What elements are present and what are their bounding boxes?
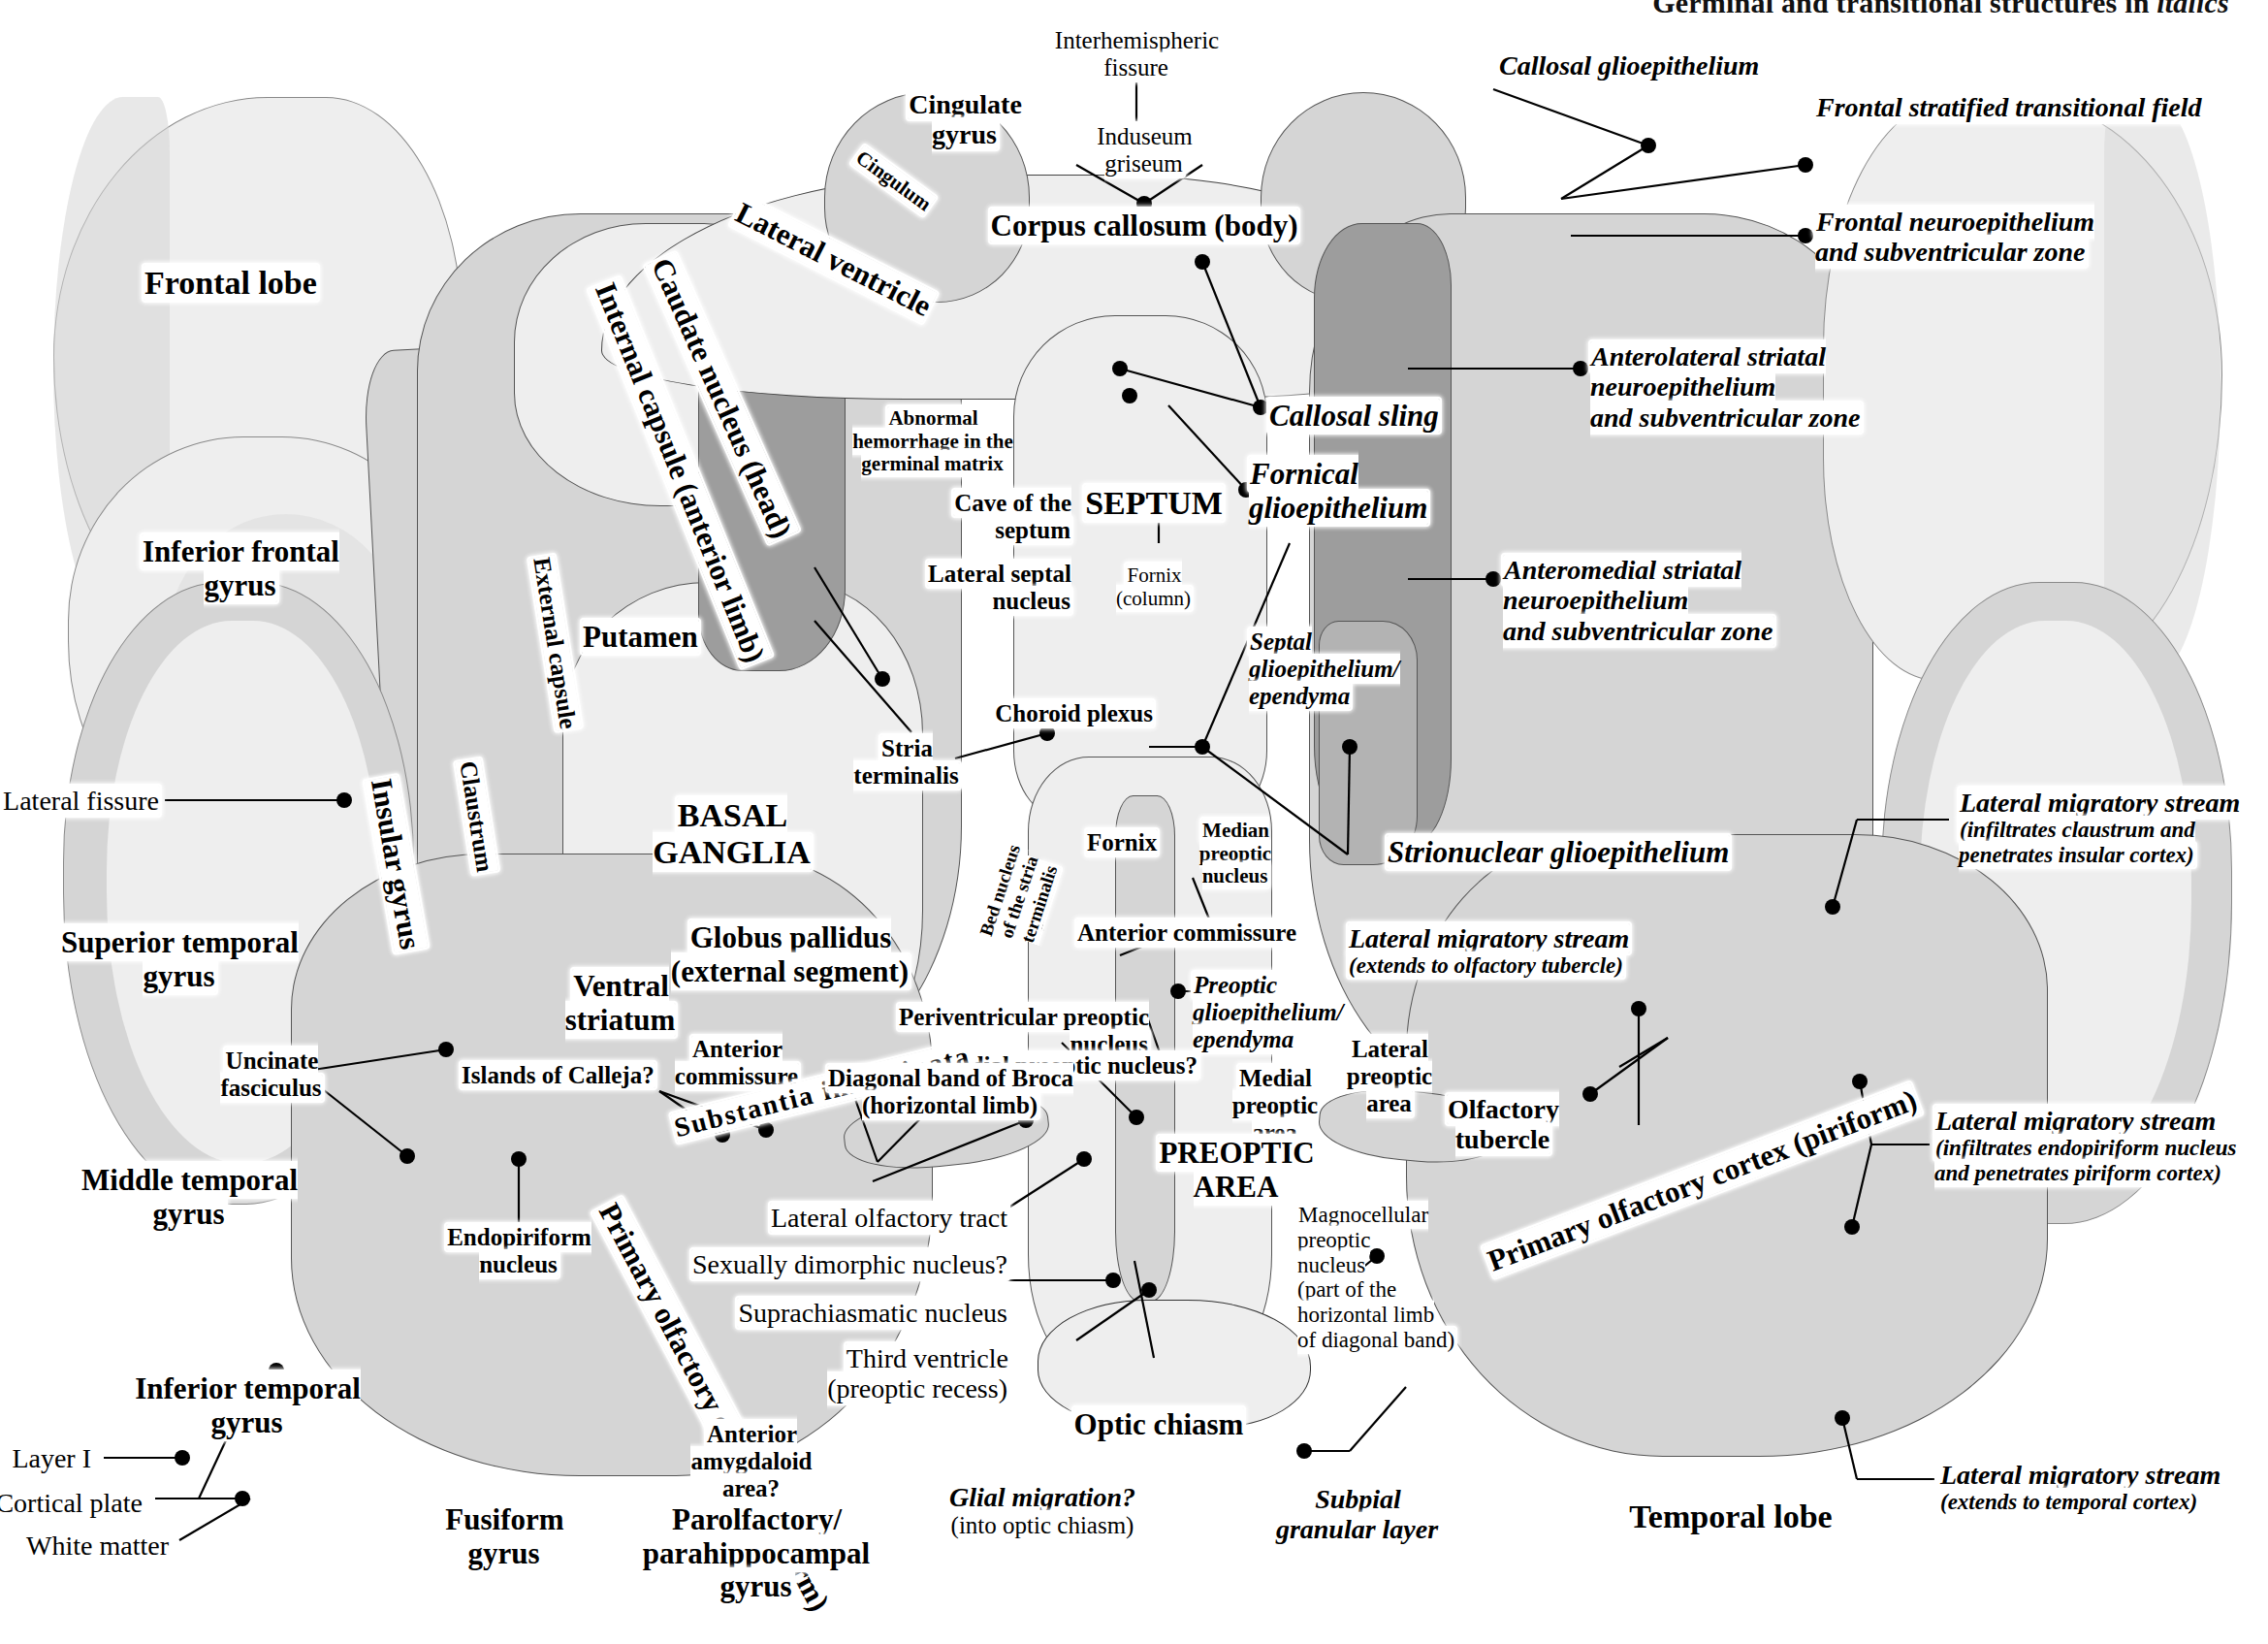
- label-lms-piriform: Lateral migratory stream (infiltrates en…: [1934, 1106, 2264, 1186]
- label-choroid-plexus: Choroid plexus: [970, 700, 1154, 727]
- label-cingulate-gyrus: Cingulate gyrus: [878, 89, 1052, 150]
- figure-page: Germinal and transitional structures in …: [0, 0, 2268, 1644]
- label-subpial-granular-layer: Subpial granular layer: [1241, 1484, 1474, 1545]
- label-corpus-callosum-body: Corpus callosum (body): [974, 210, 1314, 243]
- label-cave-of-the-septum: Cave of the septum: [897, 490, 1071, 544]
- label-induseum-griseum: Induseum griseum: [1057, 123, 1231, 177]
- label-lms-insular: Lateral migratory stream (infiltrates cl…: [1959, 788, 2268, 868]
- label-middle-temporal-gyrus: Middle temporal gyrus: [48, 1164, 330, 1231]
- label-septum: SEPTUM: [1057, 485, 1251, 522]
- label-frontal-neuroepithelium: Frontal neuroepithelium and subventricul…: [1815, 207, 2232, 268]
- label-ventral-striatum: Ventral striatum: [524, 970, 718, 1037]
- label-abnormal-hemorrhage: Abnormal hemorrhage in the germinal matr…: [836, 407, 1030, 476]
- label-frontal-stratified-transitional-field: Frontal stratified transitional field: [1815, 92, 2203, 122]
- label-anteromedial-striatal: Anteromedial striatal neuroepithelium an…: [1503, 555, 1930, 646]
- label-putamen: Putamen: [582, 621, 699, 655]
- label-islands-of-calleja: Islands of Calleja?: [461, 1062, 655, 1089]
- label-fornix-column: Fornix (column): [1076, 564, 1231, 610]
- label-frontal-lobe: Frontal lobe: [144, 265, 318, 302]
- header-plain: Germinal and transitional structures in: [1652, 0, 2156, 18]
- label-strionuclear-glioepithelium: Strionuclear glioepithelium: [1387, 836, 1730, 870]
- label-layer-i: Layer I: [0, 1443, 92, 1473]
- label-cortical-plate: Cortical plate: [0, 1488, 144, 1518]
- label-third-ventricle: Third ventricle (preoptic recess): [718, 1343, 1008, 1404]
- label-sexually-dimorphic-nucleus: Sexually dimorphic nucleus?: [640, 1249, 1008, 1279]
- label-stria-terminalis: Stria terminalis: [844, 735, 970, 790]
- label-magnocellular-preoptic-nucleus: Magnocellular preoptic nucleus (part of …: [1297, 1203, 1472, 1353]
- label-callosal-glioepithelium: Callosal glioepithelium: [1498, 50, 1760, 81]
- label-callosal-sling: Callosal sling: [1268, 400, 1440, 434]
- label-anterior-amygdaloid-area: Anterior amygdaloid area?: [669, 1421, 834, 1502]
- label-endopiriform-nucleus: Endopiriform nucleus: [441, 1224, 596, 1278]
- label-suprachiasmatic-nucleus: Suprachiasmatic nucleus: [640, 1298, 1008, 1328]
- label-median-preoptic-nucleus: Median preoptic nucleus: [1177, 820, 1294, 888]
- label-inferior-temporal-gyrus: Inferior temporal gyrus: [102, 1372, 393, 1439]
- label-anterior-commissure-upper: Anterior commissure: [659, 1036, 815, 1090]
- label-olfactory-tubercle: Olfactory tubercle: [1411, 1094, 1595, 1155]
- label-lms-olfactory-tubercle: Lateral migratory stream (extends to olf…: [1348, 923, 1648, 979]
- header-italic: italics: [2156, 0, 2229, 18]
- label-lateral-septal-nucleus: Lateral septal nucleus: [878, 561, 1071, 615]
- label-lateral-olfactory-tract: Lateral olfactory tract: [679, 1203, 1008, 1233]
- label-temporal-lobe: Temporal lobe: [1590, 1499, 1871, 1535]
- label-medial-preoptic-area: Medial preoptic area: [1217, 1065, 1333, 1146]
- label-fornical-glioepithelium: Fornical glioepithelium: [1249, 458, 1472, 525]
- label-glial-migration: Glial migration? (into optic chiasm): [902, 1482, 1183, 1539]
- label-anterior-commissure-lower: Anterior commissure: [1076, 919, 1297, 947]
- label-parolfactory-parahippocampal-gyrus: Parolfactory/ parahippocampal gyrus: [630, 1503, 882, 1604]
- label-lms-temporal: Lateral migratory stream (extends to tem…: [1939, 1460, 2259, 1515]
- label-optic-chiasm: Optic chiasm: [1047, 1408, 1270, 1442]
- label-preoptic-area: PREOPTIC AREA: [1144, 1137, 1328, 1204]
- label-septal-glioepithelium: Septal glioepithelium/ ependyma: [1249, 629, 1443, 710]
- frontal-lobe-right-cortex-band: [2104, 97, 2220, 679]
- label-diagonal-band-of-broca: Diagonal band of Broca (horizontal limb): [824, 1065, 1076, 1119]
- label-uncinate-fasciculus: Uncinate fasciculus: [194, 1048, 349, 1102]
- label-white-matter: White matter: [0, 1531, 170, 1561]
- label-lateral-fissure: Lateral fissure: [0, 786, 160, 816]
- label-superior-temporal-gyrus: Superior temporal gyrus: [39, 926, 320, 993]
- label-basal-ganglia: BASAL GANGLIA: [621, 797, 844, 871]
- page-header: Germinal and transitional structures in …: [0, 0, 2268, 19]
- interhemispheric-fissure-text: Interhemispheric fissure: [1054, 27, 1219, 81]
- label-fusiform-gyrus: Fusiform gyrus: [412, 1503, 596, 1570]
- label-fornix: Fornix: [1086, 829, 1158, 856]
- label-inferior-frontal-gyrus: Inferior frontal gyrus: [114, 535, 367, 602]
- label-anterolateral-striatal: Anterolateral striatal neuroepithelium a…: [1590, 341, 2017, 433]
- label-interhemispheric-fissure: Interhemispheric fissure: [1039, 27, 1233, 81]
